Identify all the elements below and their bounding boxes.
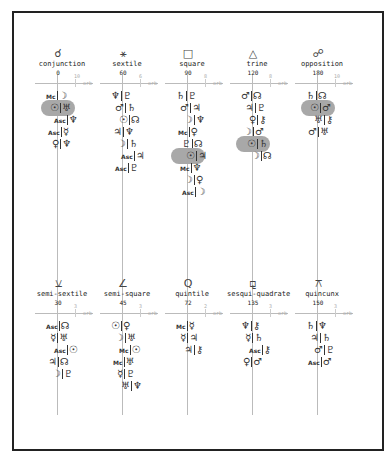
aspect-pair[interactable]: ☉♀ (111, 320, 130, 331)
pair-separator (320, 333, 321, 343)
pair-separator (196, 151, 197, 161)
aspect-pair[interactable]: Asc♆ (54, 114, 78, 125)
aspect-pair[interactable]: ♄♇ (176, 90, 197, 101)
orb-tick-label: 8 (269, 73, 272, 79)
aspect-pair[interactable]: Mc♀ (178, 126, 198, 137)
orb-tick (75, 79, 76, 87)
planet-b-icon: ♆ (193, 162, 202, 173)
pair-separator (321, 357, 322, 367)
aspect-pair[interactable]: ☉♅ (50, 102, 71, 113)
planet-a-icon: ☉ (247, 138, 256, 149)
aspect-pair[interactable]: ☉♄ (247, 138, 268, 149)
aspect-pair[interactable]: ☉♂ (310, 102, 331, 113)
planet-b-icon: ♃ (189, 332, 198, 343)
aspect-pair[interactable]: ☿♄ (245, 332, 263, 343)
aspect-pair[interactable]: ♃♇ (245, 102, 266, 113)
orb-tick (270, 79, 271, 87)
aspect-pair[interactable]: ☿♇ (117, 368, 135, 379)
planet-a-icon: ♅ (314, 114, 323, 125)
aspect-pair[interactable]: ♂♄ (115, 102, 136, 113)
aspect-pair[interactable]: Asc☿ (48, 126, 69, 137)
planet-b-icon: ☊ (131, 114, 140, 125)
aspect-pair[interactable]: ♄♆ (306, 320, 327, 331)
aspect-pair[interactable]: Mc☿ (176, 320, 195, 331)
aspect-pair[interactable]: Asc☉ (54, 344, 78, 355)
aspect-pair[interactable]: Asc♇ (115, 162, 139, 173)
aspect-name-label: trine (227, 60, 287, 68)
orb-tick (205, 309, 206, 317)
aspect-angle-label: 0 (38, 69, 78, 76)
pair-separator (127, 139, 128, 149)
planet-b-icon: ♅ (127, 332, 136, 343)
planet-b-icon: ☊ (61, 320, 70, 331)
orb-axis-label: orb (343, 310, 352, 316)
orb-tick (205, 79, 206, 87)
orb-tick-label: 6 (139, 73, 142, 79)
aspect-pair[interactable]: ♅♆ (121, 380, 142, 391)
aspect-pair[interactable]: Asc☊ (46, 320, 70, 331)
planet-b-icon: ⚷ (259, 114, 266, 125)
planet-b-icon: ♆ (196, 114, 205, 125)
aspect-pair[interactable]: ☽♅ (115, 332, 136, 343)
aspect-pair[interactable]: ♂☊ (241, 90, 262, 101)
pair-separator (60, 103, 61, 113)
aspect-pair[interactable]: ♀⚷ (249, 114, 267, 125)
aspect-pair[interactable]: ☽☊ (251, 150, 272, 161)
aspect-pair[interactable]: ☉☊ (119, 114, 140, 125)
planet-a-icon: ♂ (180, 102, 189, 113)
pair-separator (318, 127, 319, 137)
aspect-pair[interactable]: ☉♃ (186, 150, 207, 161)
pair-separator (134, 151, 135, 161)
aspect-pair[interactable]: ♃⚷ (184, 344, 203, 355)
planet-a-icon: ♃ (310, 332, 319, 343)
aspect-pair[interactable]: ♀♂ (243, 356, 262, 367)
planet-b-icon: ♇ (64, 368, 73, 379)
aspect-pair[interactable]: ☿♅ (50, 332, 68, 343)
aspect-pair[interactable]: ♆♇ (111, 90, 132, 101)
aspect-pair[interactable]: ♂♅ (308, 126, 329, 137)
aspect-pair[interactable]: Mc☉ (119, 344, 141, 355)
aspect-name-label: sextile (97, 60, 157, 68)
aspect-pair[interactable]: ♃☊ (48, 356, 69, 367)
pair-separator (189, 127, 190, 137)
aspect-pair[interactable]: ☽♆ (184, 114, 205, 125)
pair-separator (60, 139, 61, 149)
aspect-pair[interactable]: Mc♅ (113, 356, 135, 367)
planet-a-icon: ♄ (176, 90, 185, 101)
orb-tick-label: 3 (139, 303, 142, 309)
aspect-pair[interactable]: ☽♀ (184, 174, 203, 185)
planet-b-icon: ⚷ (253, 320, 260, 331)
orb-axis-label: orb (278, 310, 287, 316)
planet-a-icon: ☉ (111, 320, 120, 331)
aspect-pair[interactable]: Asc♃ (121, 150, 145, 161)
aspect-pair[interactable]: ♀♆ (52, 138, 71, 149)
aspect-pair[interactable]: ☽♄ (117, 138, 138, 149)
aspect-pair[interactable]: ♆⚷ (241, 320, 260, 331)
aspect-pair[interactable]: ♂♃ (180, 102, 201, 113)
aspect-pair[interactable]: ♂♇ (314, 344, 335, 355)
aspect-pair[interactable]: ♃♆ (113, 126, 134, 137)
aspect-pair[interactable]: Asc♂ (308, 356, 332, 367)
aspect-symbol-icon: ⚺ (38, 278, 78, 290)
aspect-pair[interactable]: Mc♆ (180, 162, 202, 173)
planet-b-icon: ♃ (136, 150, 145, 161)
planet-a-icon: Asc (54, 115, 66, 126)
planet-b-icon: ☿ (189, 320, 195, 331)
orb-axis-label: orb (83, 310, 92, 316)
aspect-angle-label: 72 (168, 299, 208, 306)
planet-a-icon: ♂ (115, 102, 124, 113)
orb-tick-label: 8 (204, 73, 207, 79)
aspect-pair[interactable]: ☽♇ (52, 368, 73, 379)
aspect-pair[interactable]: Asc⚷ (249, 344, 271, 355)
aspect-pair[interactable]: ♅⚷ (314, 114, 333, 125)
orb-axis-label: orb (148, 310, 157, 316)
pair-separator (320, 103, 321, 113)
pair-separator (124, 369, 125, 379)
aspect-pair[interactable]: ☿♃ (180, 332, 198, 343)
aspect-pair[interactable]: ♃♄ (310, 332, 331, 343)
pair-separator (59, 321, 60, 331)
aspect-angle-label: 150 (298, 299, 338, 306)
aspect-angle-label: 45 (103, 299, 143, 306)
aspect-pair[interactable]: Asc☽ (182, 186, 206, 197)
planet-b-icon: ♆ (318, 320, 327, 331)
